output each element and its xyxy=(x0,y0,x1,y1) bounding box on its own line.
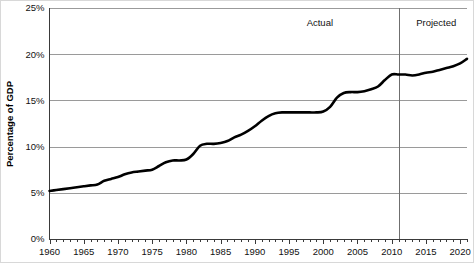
x-tick-label-1: 1965 xyxy=(73,246,94,257)
y-tick-label-0: 0% xyxy=(31,233,45,244)
projected-region-label: Projected xyxy=(416,17,456,28)
x-tick-label-6: 1990 xyxy=(244,246,265,257)
x-tick-label-9: 2005 xyxy=(347,246,368,257)
y-tick-label-3: 15% xyxy=(25,95,45,106)
x-tick-label-2: 1970 xyxy=(107,246,128,257)
x-tick-label-7: 1995 xyxy=(278,246,299,257)
chart-container: 0%5%10%15%20%25% 19601965197019751980198… xyxy=(0,0,474,263)
y-tick-label-4: 20% xyxy=(25,49,45,60)
y-axis-title: Percentage of GDP xyxy=(4,80,15,167)
x-tick-label-4: 1980 xyxy=(176,246,197,257)
gdp-series-line xyxy=(50,59,468,191)
x-tick-label-11: 2015 xyxy=(415,246,436,257)
y-axis-tick-labels: 0%5%10%15%20%25% xyxy=(25,2,45,244)
x-tick-label-0: 1960 xyxy=(39,246,60,257)
gdp-percentage-line-chart: 0%5%10%15%20%25% 19601965197019751980198… xyxy=(1,1,474,263)
x-tick-label-12: 2020 xyxy=(450,246,471,257)
x-axis-tick-labels: 1960196519701975198019851990199520002005… xyxy=(39,246,471,257)
y-tick-label-2: 10% xyxy=(25,141,45,152)
y-tick-label-5: 25% xyxy=(25,2,45,13)
gridlines xyxy=(50,9,468,194)
x-tick-label-5: 1985 xyxy=(210,246,231,257)
y-tick-label-1: 5% xyxy=(31,187,45,198)
x-tick-label-3: 1975 xyxy=(142,246,163,257)
x-tick-label-8: 2000 xyxy=(313,246,334,257)
x-tick-label-10: 2010 xyxy=(381,246,402,257)
actual-region-label: Actual xyxy=(307,17,333,28)
